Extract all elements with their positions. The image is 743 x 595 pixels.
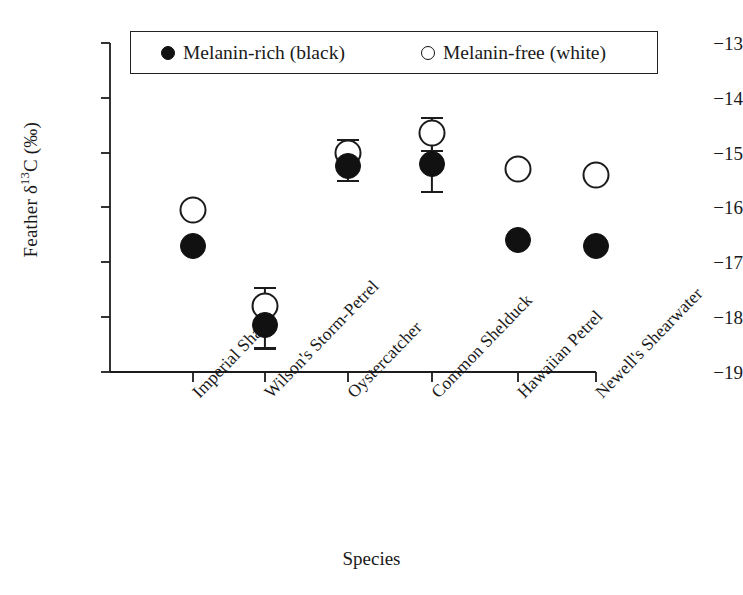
error-bar-cap — [254, 287, 276, 289]
error-bar-cap — [254, 347, 276, 349]
y-axis-ticks — [101, 43, 110, 372]
data-point-melanin-rich — [505, 227, 531, 253]
data-point-melanin-free — [583, 161, 610, 188]
error-bar-cap — [421, 191, 443, 193]
y-axis-title: Feather δ13C (‰) — [18, 90, 41, 290]
x-axis-title: Species — [0, 548, 743, 570]
y-tick-label: −18 — [697, 308, 743, 327]
delta-symbol: δ — [20, 185, 41, 194]
legend-entry-melanin-rich: Melanin-rich (black) — [161, 42, 345, 64]
data-point-melanin-rich — [419, 151, 445, 177]
legend-label: Melanin-rich (black) — [183, 42, 345, 64]
y-tick-label: −19 — [697, 363, 743, 382]
data-point-melanin-free — [180, 197, 207, 224]
y-tick-label: −13 — [697, 34, 743, 53]
y-tick-label: −16 — [697, 198, 743, 217]
data-point-melanin-rich — [335, 153, 361, 179]
legend-entry-melanin-free: Melanin-free (white) — [421, 42, 606, 64]
data-point-melanin-rich — [252, 312, 278, 338]
y-tick-label: −15 — [697, 144, 743, 163]
error-bar-cap — [421, 117, 443, 119]
data-point-melanin-rich — [180, 233, 206, 259]
data-point-melanin-rich — [583, 233, 609, 259]
y-tick-label: −14 — [697, 89, 743, 108]
legend: Melanin-rich (black) Melanin-free (white… — [130, 31, 658, 74]
legend-label: Melanin-free (white) — [443, 42, 606, 64]
isotope-superscript: 13 — [18, 172, 32, 185]
data-point-melanin-free — [419, 120, 446, 147]
y-tick-label: −17 — [697, 253, 743, 272]
data-point-melanin-free — [505, 156, 532, 183]
open-circle-icon — [421, 46, 435, 60]
feather-isotope-scatter-chart: −13 −14 −15 −16 −17 −18 −19 Feather δ13C… — [0, 0, 743, 595]
error-bar-cap — [337, 180, 359, 182]
filled-circle-icon — [161, 46, 175, 60]
